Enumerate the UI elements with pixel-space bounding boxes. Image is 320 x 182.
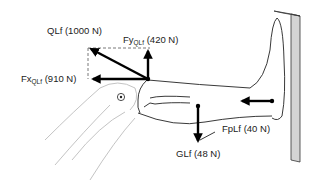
vector-QLf [91,49,148,79]
glf-origin-dot [196,104,200,108]
label-GLf: GLf (48 N) [176,149,220,159]
force-origin-dot [146,77,150,81]
label-FpLf: FpLf (40 N) [222,124,270,134]
wall [274,11,300,162]
fplf-origin-dot [270,99,274,103]
knee-axis-marker [117,93,124,100]
label-FyQLf: FyQLf (420 N) [123,35,178,47]
label-QLf: QLf (1000 N) [47,26,102,36]
label-FxQLf: FxQLf (910 N) [21,74,76,86]
